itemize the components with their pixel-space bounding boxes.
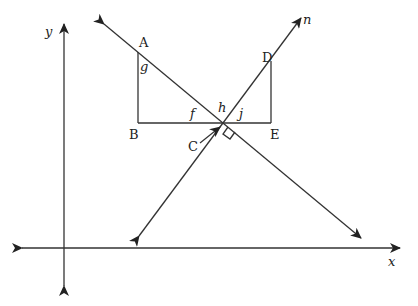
point-e-label: E bbox=[270, 127, 280, 142]
line-n-label: n bbox=[303, 12, 311, 27]
point-c-label: C bbox=[188, 139, 198, 154]
point-d-label: D bbox=[262, 50, 272, 65]
x-axis-label: x bbox=[388, 254, 396, 269]
point-a-label: A bbox=[138, 35, 149, 50]
angle-g-label: g bbox=[140, 59, 148, 74]
angle-f-label: f bbox=[189, 106, 197, 121]
line-through-a bbox=[104, 24, 361, 238]
angle-j-label: j bbox=[236, 106, 243, 121]
point-b-label: B bbox=[129, 127, 139, 142]
geometry-diagram: y x n A B C D E g f h j bbox=[0, 0, 418, 306]
angle-h-label: h bbox=[218, 100, 226, 115]
y-axis-label: y bbox=[44, 24, 53, 39]
